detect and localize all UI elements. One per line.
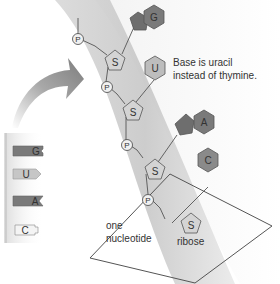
phosphate-3: P [122, 140, 133, 151]
nucleotide-label-line2: nucleotide [106, 233, 152, 244]
legend-base-g: G [13, 146, 43, 157]
phosphate-1: P [73, 34, 84, 45]
svg-text:C: C [204, 155, 211, 166]
svg-text:P: P [145, 196, 150, 205]
curved-arrow-icon [12, 58, 84, 128]
svg-text:A: A [32, 196, 39, 207]
legend-base-c: C [15, 225, 38, 236]
svg-text:S: S [130, 107, 137, 118]
phosphate-4: P [143, 195, 154, 206]
legend-base-a: A [13, 196, 43, 207]
svg-text:S: S [188, 220, 195, 231]
svg-text:G: G [150, 12, 158, 23]
uracil-note-line2: instead of thymine. [173, 70, 257, 81]
uracil-note-line1: Base is uracil [173, 57, 232, 68]
svg-text:S: S [152, 166, 159, 177]
svg-text:U: U [22, 169, 29, 180]
rna-diagram: G U A C P S [0, 0, 280, 284]
svg-text:G: G [32, 146, 40, 157]
svg-text:A: A [201, 117, 208, 128]
svg-text:S: S [112, 57, 119, 68]
nucleotide-label-line1: one [106, 220, 123, 231]
svg-text:P: P [104, 83, 109, 92]
legend-base-u: U [13, 169, 41, 180]
svg-text:P: P [75, 35, 80, 44]
svg-text:C: C [21, 225, 28, 236]
svg-text:P: P [124, 141, 129, 150]
phosphate-2: P [102, 82, 113, 93]
ribose-label: ribose [177, 236, 205, 247]
svg-text:U: U [151, 63, 158, 74]
